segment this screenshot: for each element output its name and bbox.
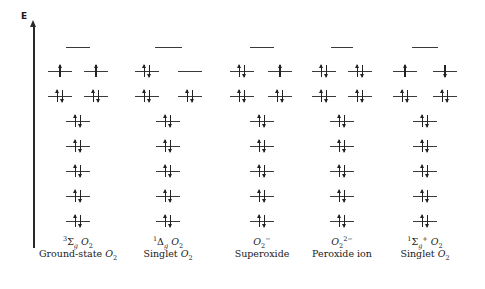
arrow-head [360,99,364,103]
arrow-head [262,199,266,203]
arrow-head [337,164,341,168]
pi-star-orbital [84,64,108,78]
arrow-head [262,149,266,153]
arrow-head [257,164,261,168]
pi-star-orbital [135,64,159,78]
filled-orbital [66,214,90,228]
species-name-label: Singlet O2 [143,248,192,262]
filled-orbital [330,164,354,178]
orbital-line [178,71,202,72]
filled-orbital [413,214,437,228]
arrow-head [73,164,77,168]
filled-orbital [66,189,90,203]
arrow-head [73,189,77,193]
pi-star-orbital [393,64,417,78]
orbital-line [66,196,90,197]
arrow-head [257,189,261,193]
orbital-line [312,96,336,97]
species-formula: O [105,248,113,259]
arrow-head [262,224,266,228]
species-name-label: Peroxide ion [312,248,372,259]
species-name-text: Singlet [400,248,437,259]
arrow-head [420,114,424,118]
arrow-head [78,124,82,128]
arrow-head [278,64,282,68]
orbital-line [156,221,180,222]
filled-orbital [413,114,437,128]
arrow-head [185,89,189,93]
orbital-line [250,121,274,122]
arrow-head [425,149,429,153]
arrow-head [257,139,261,143]
pi-orbital [268,89,292,103]
charge: − [265,235,270,243]
arrow-head [337,139,341,143]
arrow-head [78,199,82,203]
arrow-head [342,149,346,153]
filled-orbital [66,164,90,178]
species-subscript: 2 [113,254,117,262]
arrow-head [163,214,167,218]
species-formula: O [438,248,446,259]
filled-orbital [156,114,180,128]
orbital-line [66,121,90,122]
arrow-head [324,99,328,103]
species-name-label: Singlet O2 [400,248,449,262]
orbital-line [413,171,437,172]
orbital-line [250,47,274,48]
arrow-head [280,99,284,103]
arrow-head [420,164,424,168]
filled-orbital [156,164,180,178]
orbital-line [393,96,417,97]
pi-star-orbital [433,64,457,78]
pi-orbital [230,89,254,103]
species-formula: O [78,236,89,247]
filled-orbital [250,114,274,128]
arrow-head [73,139,77,143]
orbital-line [66,171,90,172]
pi-orbital [393,89,417,103]
arrow-head [440,89,444,93]
arrow-head [190,99,194,103]
arrow-head [319,89,323,93]
arrow-head [242,74,246,78]
orbital-line [48,96,72,97]
arrow-head [425,199,429,203]
arrow-head [94,64,98,68]
orbital-line [156,196,180,197]
arrow-head [78,174,82,178]
term-symbol: Δ [157,236,164,247]
pi-star-orbital [230,64,254,78]
orbital-line [230,71,254,72]
arrow-head [337,114,341,118]
filled-orbital [156,139,180,153]
orbital-line [330,121,354,122]
species-formula: O [428,236,439,247]
orbital-line [331,47,353,48]
orbital-line [135,96,159,97]
arrow-head [425,224,429,228]
arrow-head [275,89,279,93]
arrow-head [405,99,409,103]
orbital-line [250,171,274,172]
species-name-text: Ground-state [39,248,105,259]
arrow-head [355,89,359,93]
orbital-line [330,146,354,147]
arrow-head [360,74,364,78]
arrow-head [257,214,261,218]
arrow-head [147,99,151,103]
arrow-head [55,89,59,93]
pi-star-orbital [268,64,292,78]
pi-star-orbital [348,64,372,78]
arrow-head [337,189,341,193]
filled-orbital [156,214,180,228]
arrow-head [78,224,82,228]
arrow-head [168,224,172,228]
arrow-head [262,124,266,128]
arrow-head [355,64,359,68]
arrow-head [147,74,151,78]
arrow-head [142,64,146,68]
filled-orbital [66,139,90,153]
arrow-head [400,89,404,93]
arrow-head [445,99,449,103]
